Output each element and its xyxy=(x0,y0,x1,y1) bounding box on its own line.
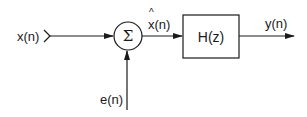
sigma-icon: Σ xyxy=(123,27,134,45)
filter-label: H(z) xyxy=(198,29,224,45)
hat-accent: ^ xyxy=(149,7,154,18)
block-diagram: x(n) Σ e(n) x(n) ^ H(z) y(n) xyxy=(0,0,307,117)
summing-junction: Σ xyxy=(114,22,142,50)
noise-label: e(n) xyxy=(100,92,123,107)
filter-block: H(z) xyxy=(183,15,239,58)
input-chevron-icon xyxy=(44,30,50,42)
output-label: y(n) xyxy=(265,16,287,31)
input-label: x(n) xyxy=(17,29,39,44)
intermediate-label: x(n) xyxy=(148,17,170,32)
